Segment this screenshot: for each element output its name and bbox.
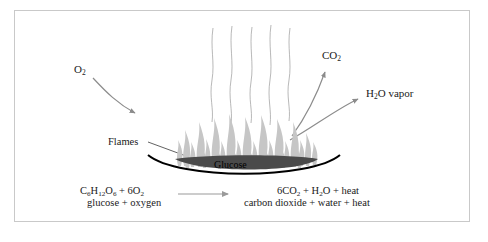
water-vapor-output-label: H2O vapor	[366, 88, 413, 100]
glucose-label: Glucose	[214, 160, 247, 171]
flames-label: Flames	[108, 136, 138, 147]
diagram-canvas: O2 CO2 H2O vapor Flames Glucose C6H12O6 …	[0, 0, 488, 242]
oxygen-input-label: O2	[74, 64, 86, 76]
co2-output-label: CO2	[322, 50, 341, 62]
equation-reactants-words: glucose + oxygen	[87, 197, 161, 208]
equation-products-words: carbon dioxide + water + heat	[244, 197, 370, 208]
